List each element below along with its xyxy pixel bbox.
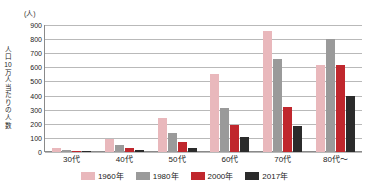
y-axis-title: 人口10万人当たりの人数 [2, 30, 14, 145]
bar [158, 118, 167, 152]
bar [230, 125, 239, 152]
y-axis-tick-label: 500 [20, 78, 42, 85]
x-axis-tick-label: 70代 [256, 153, 309, 164]
y-axis-tick-label: 400 [20, 92, 42, 99]
bar [115, 145, 124, 152]
bar [346, 96, 355, 152]
legend-swatch [81, 172, 95, 180]
legend-label: 2017年 [262, 170, 288, 181]
legend-label: 1960年 [98, 170, 124, 181]
bar-group [151, 25, 204, 152]
bar-group [203, 25, 256, 152]
bar [168, 133, 177, 152]
legend-swatch [136, 172, 150, 180]
y-axis-tick-label: 200 [20, 120, 42, 127]
y-axis-tick-label: 900 [20, 22, 42, 29]
legend-label: 1980年 [153, 170, 179, 181]
legend-item[interactable]: 2000年 [191, 170, 234, 181]
bar [273, 59, 282, 152]
legend-swatch [245, 172, 259, 180]
x-axis-tick-label: 60代 [203, 153, 256, 164]
bar [210, 74, 219, 152]
bar-group [309, 25, 362, 152]
x-axis-ticks: 30代40代50代60代70代80代〜 [45, 153, 362, 164]
bar-group [256, 25, 309, 152]
chart-legend: 1960年1980年2000年2017年 [0, 170, 369, 181]
chart-title-strip [0, 0, 369, 7]
legend-item[interactable]: 1960年 [81, 170, 124, 181]
y-axis-tick-label: 600 [20, 64, 42, 71]
bar [293, 126, 302, 152]
y-axis-tick-label: 300 [20, 106, 42, 113]
legend-item[interactable]: 1980年 [136, 170, 179, 181]
bar [220, 108, 229, 152]
bar [240, 137, 249, 152]
bar [105, 139, 114, 152]
legend-item[interactable]: 2017年 [245, 170, 288, 181]
bar [125, 148, 134, 152]
bar [135, 150, 144, 152]
x-axis-tick-label: 80代〜 [309, 153, 362, 164]
y-axis-tick-label: 700 [20, 50, 42, 57]
y-axis-unit-caption: (人) [24, 8, 36, 18]
bar [72, 151, 81, 152]
y-axis-tick-label: 800 [20, 36, 42, 43]
bar [326, 39, 335, 152]
bar-group [98, 25, 151, 152]
legend-label: 2000年 [208, 170, 234, 181]
x-axis-tick-label: 30代 [45, 153, 98, 164]
bar [178, 142, 187, 152]
bar [188, 148, 197, 152]
x-axis-tick-label: 40代 [98, 153, 151, 164]
bar [82, 151, 91, 152]
bar [62, 150, 71, 152]
bar-groups [45, 25, 362, 152]
y-axis-ticks: 9008007006005004003002001000 [16, 25, 42, 152]
bar [336, 65, 345, 152]
legend-swatch [191, 172, 205, 180]
bar [283, 107, 292, 152]
bar [316, 65, 325, 152]
y-axis-tick-label: 100 [20, 134, 42, 141]
x-axis-tick-label: 50代 [151, 153, 204, 164]
bar-group [45, 25, 98, 152]
bar [263, 31, 272, 152]
y-axis-tick-label: 0 [20, 149, 42, 156]
bar [52, 148, 61, 152]
y-axis-title-text: 人口10万人当たりの人数 [4, 46, 12, 130]
